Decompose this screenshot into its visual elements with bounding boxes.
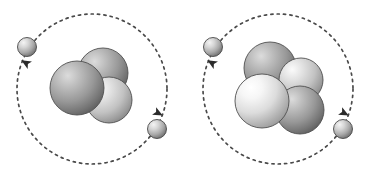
atom-diagram [0, 0, 370, 177]
electron-lower-right [334, 120, 353, 139]
nucleus [50, 48, 132, 123]
atoms-layer [17, 14, 353, 164]
helium-3-atom [17, 14, 167, 164]
electron-upper-left [204, 38, 223, 57]
helium-4-atom [203, 14, 353, 164]
atom-diagram-canvas [0, 0, 370, 177]
electron-upper-left [18, 38, 37, 57]
electron-lower-right [148, 120, 167, 139]
orbit-arrow-right [152, 107, 165, 119]
nucleon-front-left [50, 61, 104, 115]
orbit-arrow-right [338, 107, 351, 119]
nucleus [235, 42, 324, 134]
nucleon-front-left [235, 74, 289, 128]
